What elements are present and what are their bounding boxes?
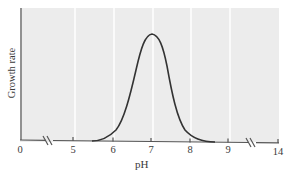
x-tick-5: 5 bbox=[70, 144, 75, 155]
x-axis-label: pH bbox=[135, 158, 148, 170]
y-axis-label: Growth rate bbox=[6, 38, 20, 108]
x-tick-8: 8 bbox=[187, 144, 192, 155]
x-tick-6: 6 bbox=[110, 144, 115, 155]
x-tick-7: 7 bbox=[148, 144, 153, 155]
x-tick-0: 0 bbox=[17, 144, 22, 155]
growth-rate-vs-ph-chart: Growth rate pH 0 5 6 7 8 9 14 bbox=[0, 0, 287, 178]
chart-canvas bbox=[0, 0, 287, 178]
x-tick-9: 9 bbox=[225, 144, 230, 155]
plot-area bbox=[20, 8, 279, 142]
x-tick-14: 14 bbox=[273, 146, 284, 157]
